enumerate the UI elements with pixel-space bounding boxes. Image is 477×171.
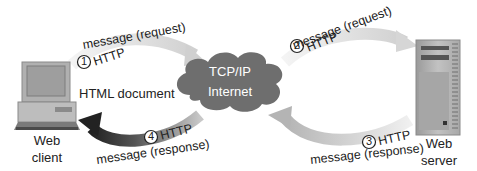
web-server-line2: server [414,152,464,169]
desktop-computer-icon [14,62,80,130]
internet-cloud-label: TCP/IP Internet [190,62,270,102]
step-4-number: 4 [148,131,154,142]
step-3-number: 3 [366,136,372,147]
step-1-number: 1 [81,56,87,67]
web-client-line2: client [22,149,72,166]
web-client-label: Web client [22,132,72,166]
internet-line1: TCP/IP [190,62,270,82]
tower-server-icon [416,40,460,135]
web-server-label: Web server [414,135,464,169]
internet-line2: Internet [190,82,270,102]
html-document-label: HTML document [79,87,175,100]
web-server-line1: Web [414,135,464,152]
web-client-line1: Web [22,132,72,149]
